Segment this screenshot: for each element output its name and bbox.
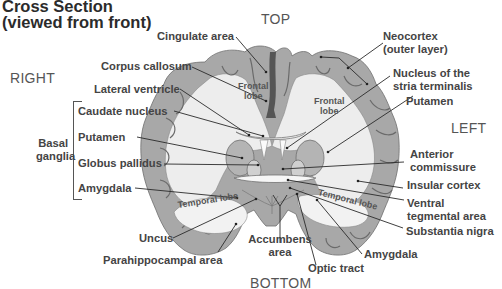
- label-nucleus-line-2: stria terminalis: [393, 80, 473, 93]
- label-accumbens-area: Accumbens area: [243, 233, 317, 258]
- label-caudate-nucleus: Caudate nucleus: [78, 105, 168, 118]
- label-amygdala-right: Amygdala: [364, 248, 417, 261]
- inner-label-frontal-lobe-left-hemisphere: Frontal lobe: [314, 97, 345, 116]
- orientation-left: LEFT: [451, 120, 486, 136]
- label-ventral-line-1: Ventral: [407, 197, 486, 210]
- label-lateral-ventricle: Lateral ventricle: [94, 83, 180, 96]
- orientation-right: RIGHT: [10, 70, 55, 86]
- label-putamen-left: Putamen: [78, 131, 125, 144]
- label-accumbens-line-1: Accumbens: [243, 233, 317, 246]
- orientation-bottom: BOTTOM: [250, 275, 311, 289]
- label-nucleus-stria-terminalis: Nucleus of the stria terminalis: [393, 67, 473, 92]
- label-substantia-nigra: Substantia nigra: [406, 225, 494, 238]
- label-corpus-callosum: Corpus callosum: [101, 60, 192, 73]
- label-ventral-line-2: tegmental area: [407, 210, 486, 223]
- inner-label-frontal-lobe-right-hemisphere: Frontal lobe: [238, 82, 269, 101]
- label-optic-tract: Optic tract: [308, 262, 364, 275]
- label-insular-cortex: Insular cortex: [407, 179, 480, 192]
- basal-ganglia-label: Basal ganglia: [36, 137, 68, 162]
- label-neocortex: Neocortex (outer layer): [383, 30, 448, 55]
- label-neocortex-line-1: Neocortex: [383, 30, 448, 43]
- title-line-1: Cross Section: [2, 0, 151, 14]
- label-parahippocampal-area: Parahippocampal area: [103, 254, 222, 267]
- label-anterior-line-2: commissure: [410, 161, 476, 174]
- label-putamen-right: Putamen: [406, 95, 453, 108]
- label-accumbens-line-2: area: [243, 246, 317, 259]
- label-uncus: Uncus: [139, 232, 173, 245]
- frontal-lobe-label-line-2: lobe: [314, 107, 345, 117]
- label-ventral-tegmental-area: Ventral tegmental area: [407, 197, 486, 222]
- diagram-title: Cross Section (viewed from front): [2, 0, 151, 30]
- label-anterior-commissure: Anterior commissure: [410, 148, 476, 173]
- label-nucleus-line-1: Nucleus of the: [393, 67, 473, 80]
- title-line-2: (viewed from front): [2, 14, 151, 30]
- orientation-top: TOP: [261, 11, 290, 27]
- label-cingulate-area: Cingulate area: [157, 30, 234, 43]
- frontal-lobe-label-line-2: lobe: [238, 92, 269, 102]
- basal-ganglia-label-line-2: ganglia: [36, 150, 68, 163]
- label-globus-pallidus: Globus pallidus: [78, 157, 162, 170]
- basal-ganglia-label-line-1: Basal: [36, 137, 68, 150]
- label-amygdala-left: Amygdala: [78, 182, 131, 195]
- label-neocortex-line-2: (outer layer): [383, 43, 448, 56]
- label-anterior-line-1: Anterior: [410, 148, 476, 161]
